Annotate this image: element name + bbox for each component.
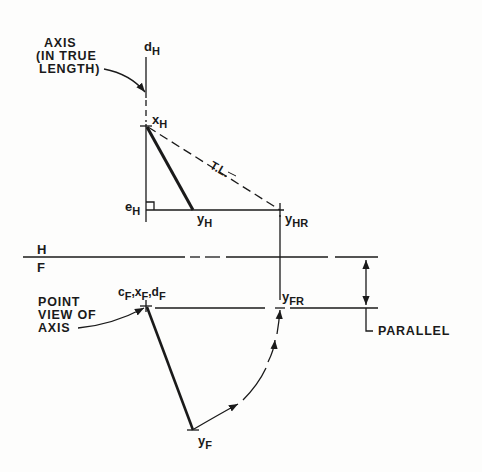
axis-note-leader — [104, 69, 145, 92]
rotation-arc-1 — [194, 404, 238, 429]
label-yHR: yHR — [285, 212, 308, 229]
label-yH: yH — [197, 212, 212, 229]
fold-label-H: H — [37, 243, 46, 256]
fold-label-F: F — [37, 261, 45, 274]
parallel-leader — [366, 308, 373, 331]
rotation-arc-2 — [243, 368, 266, 400]
rotation-arc-3 — [268, 340, 275, 362]
diagram-canvas: AXIS (IN TRUE LENGTH) dH xH T.L. eH yH y… — [0, 0, 482, 472]
line-xH-yH — [147, 127, 193, 210]
line-xF-yF — [147, 307, 193, 430]
point-view-note: POINT VIEW OF AXIS — [38, 296, 96, 335]
label-eH: eH — [125, 200, 140, 217]
label-dH: dH — [144, 40, 160, 57]
rotation-arc-4 — [277, 310, 280, 334]
parallel-note: PARALLEL — [378, 325, 450, 338]
axis-note-line-3: LENGTH) — [36, 63, 100, 76]
point-view-note-line-3: AXIS — [38, 322, 96, 335]
axis-note: AXIS (IN TRUE LENGTH) — [36, 37, 100, 76]
label-cF-xF-dF: cF,xF,dF — [118, 286, 166, 302]
label-yF: yF — [198, 434, 212, 451]
label-yFR: yFR — [282, 290, 304, 307]
label-xH: xH — [152, 113, 167, 130]
